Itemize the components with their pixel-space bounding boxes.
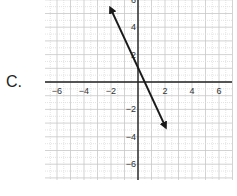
coordinate-plane: −6−4−2246642−2−4−6 bbox=[0, 0, 237, 196]
x-tick-label: −4 bbox=[79, 86, 89, 96]
x-tick-label: 6 bbox=[216, 86, 221, 96]
x-tick-label: −2 bbox=[106, 86, 116, 96]
y-tick-label: −6 bbox=[126, 159, 136, 169]
y-tick-label: −2 bbox=[126, 104, 136, 114]
x-tick-label: −6 bbox=[52, 86, 62, 96]
y-tick-label: 4 bbox=[131, 22, 136, 32]
y-tick-label: 6 bbox=[131, 0, 136, 5]
x-tick-label: 4 bbox=[189, 86, 194, 96]
x-tick-label: 2 bbox=[162, 86, 167, 96]
y-tick-label: −4 bbox=[126, 132, 136, 142]
